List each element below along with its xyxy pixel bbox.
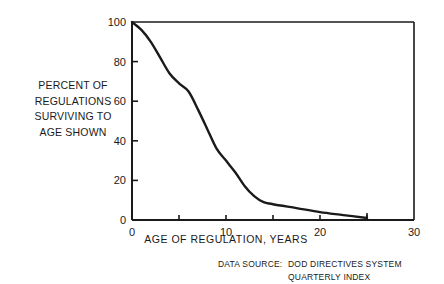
- y-axis-label-line: SURVIVING TO: [14, 109, 132, 125]
- data-source-value: DOD DIRECTIVES SYSTEM QUARTERLY INDEX: [288, 258, 402, 284]
- axis-ticks: [132, 62, 367, 220]
- x-tick-label: 30: [408, 226, 420, 238]
- x-axis-label: AGE OF REGULATION, YEARS: [132, 233, 320, 245]
- data-source-line: QUARTERLY INDEX: [288, 271, 402, 284]
- survival-curve: [132, 22, 367, 218]
- y-axis-label-line: PERCENT OF: [14, 78, 132, 94]
- plot-frame: [132, 22, 414, 220]
- y-tick-label: 80: [114, 56, 126, 68]
- y-tick-label: 100: [108, 16, 126, 28]
- y-axis-label-line: AGE SHOWN: [14, 125, 132, 141]
- data-source-line: DOD DIRECTIVES SYSTEM: [288, 258, 402, 271]
- y-tick-label: 0: [120, 214, 126, 226]
- data-source-label: DATA SOURCE:: [218, 258, 282, 271]
- y-axis-label: PERCENT OF REGULATIONS SURVIVING TO AGE …: [14, 78, 132, 140]
- y-tick-label: 20: [114, 174, 126, 186]
- y-axis-label-line: REGULATIONS: [14, 94, 132, 110]
